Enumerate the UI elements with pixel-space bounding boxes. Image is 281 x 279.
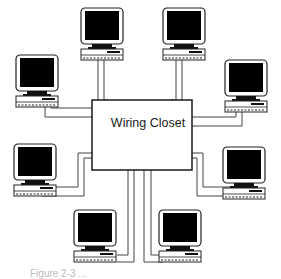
wiring-closet-box bbox=[92, 100, 192, 170]
computer-icon bbox=[225, 60, 267, 112]
computer-icon bbox=[16, 55, 58, 107]
computer-icon bbox=[223, 147, 265, 199]
star-topology-diagram: Wiring Closet Figure 2-3 ... bbox=[0, 0, 281, 279]
computer-icon bbox=[81, 8, 123, 60]
computer-icon bbox=[159, 210, 201, 262]
figure-caption: Figure 2-3 ... bbox=[30, 268, 87, 279]
computer-icon bbox=[163, 8, 205, 60]
wiring-closet-label: Wiring Closet bbox=[98, 116, 198, 130]
computer-icon bbox=[74, 210, 116, 262]
diagram-graphic bbox=[0, 0, 281, 279]
computer-icon bbox=[14, 144, 56, 196]
